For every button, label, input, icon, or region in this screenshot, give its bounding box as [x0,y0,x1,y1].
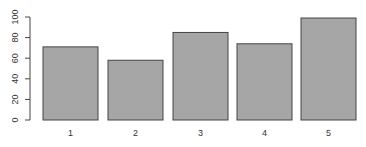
bar [173,32,228,120]
x-tick-label: 2 [133,128,138,138]
x-tick-label: 5 [326,128,331,138]
x-tick-label: 3 [198,128,203,138]
bar [108,60,163,120]
bar-chart-canvas: 020406080100 12345 [0,0,366,147]
y-tick-label: 60 [10,53,20,63]
y-axis: 020406080100 [10,9,30,122]
x-tick-label: 4 [262,128,267,138]
bar [237,44,292,120]
y-tick-label: 80 [10,33,20,43]
x-tick-label: 1 [68,128,73,138]
bar [43,47,98,120]
y-tick-label: 20 [10,94,20,104]
bar-chart: 020406080100 12345 [0,0,366,147]
y-tick-label: 40 [10,74,20,84]
y-tick-label: 0 [10,117,20,122]
x-axis-labels: 12345 [68,128,331,138]
bars [43,18,356,120]
y-tick-label: 100 [10,9,20,24]
bar [301,18,356,120]
